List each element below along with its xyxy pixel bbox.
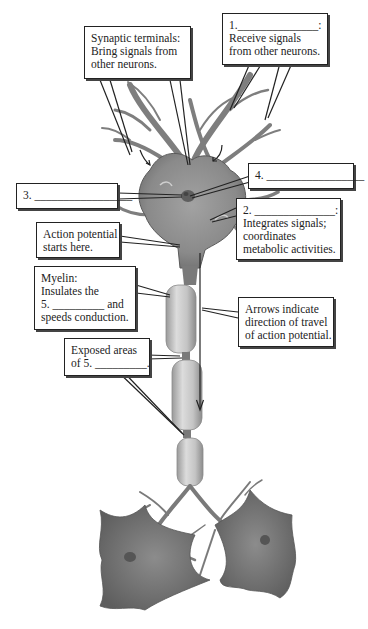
arrows-line-2: direction of travel	[245, 316, 327, 329]
myelin-segment	[172, 360, 202, 430]
label-4-blank: _________________	[267, 169, 365, 181]
label-2-suffix: :	[335, 204, 338, 216]
label-3-number: 3.	[23, 189, 32, 201]
myelin-segment	[166, 285, 196, 353]
action-potential-line-2: starts here.	[43, 241, 113, 254]
label-2-line-2: coordinates	[243, 230, 334, 243]
myelin-line-4: speeds conduction.	[41, 311, 129, 324]
callout-label-3: 3. _________________	[16, 183, 118, 209]
myelin-5-suffix: and	[107, 298, 124, 310]
synaptic-terminals-line-3: other neurons.	[91, 58, 184, 71]
synaptic-terminals-line-2: Bring signals from	[91, 45, 184, 58]
callout-synaptic-terminals: Synaptic terminals: Bring signals from o…	[84, 26, 191, 79]
label-1-blank: ______________	[238, 19, 319, 31]
arrows-line-3: of action potential.	[245, 329, 327, 342]
label-2-line-1: Integrates signals;	[243, 217, 334, 230]
label-1-number: 1.	[229, 19, 238, 31]
callout-arrows: Arrows indicate direction of travel of a…	[238, 297, 334, 347]
label-1-line-1: Receive signals	[229, 32, 321, 45]
action-potential-line-1: Action potential	[43, 228, 113, 241]
label-2-blank: ______________	[255, 204, 336, 216]
callout-label-4: 4. _________________	[248, 163, 354, 189]
synaptic-terminals-line-1: Synaptic terminals:	[91, 32, 184, 45]
callout-myelin: Myelin: Insulates the 5. _________ and s…	[34, 266, 136, 330]
label-2-line-3: metabolic activities.	[243, 243, 334, 256]
exposed-areas-5-blank: _________	[95, 357, 147, 369]
label-4-number: 4.	[255, 169, 264, 181]
callout-action-potential: Action potential starts here.	[36, 222, 120, 258]
label-2-number: 2.	[243, 204, 252, 216]
myelin-line-1: Myelin:	[41, 272, 129, 285]
callout-label-1: 1.______________: Receive signals from o…	[222, 13, 328, 65]
label-1-suffix: :	[318, 19, 321, 31]
myelin-segment	[177, 438, 203, 486]
exposed-areas-5-number: of 5.	[71, 357, 92, 369]
exposed-areas-line-1: Exposed areas	[71, 344, 143, 357]
label-1-line-2: from other neurons.	[229, 45, 321, 58]
myelin-5-blank: _________	[53, 298, 105, 310]
postsynaptic-neuron-left	[99, 505, 210, 610]
arrows-line-1: Arrows indicate	[245, 303, 327, 316]
postsynaptic-neuron-right	[215, 490, 296, 598]
exposed-areas-5-suffix: .	[147, 357, 150, 369]
callout-exposed-areas: Exposed areas of 5. _________.	[64, 338, 150, 376]
nucleus	[181, 190, 195, 202]
myelin-line-2: Insulates the	[41, 285, 129, 298]
myelin-5-number: 5.	[41, 298, 50, 310]
callout-label-2: 2. ______________: Integrates signals; c…	[236, 198, 341, 260]
label-3-blank: _________________	[35, 189, 133, 201]
